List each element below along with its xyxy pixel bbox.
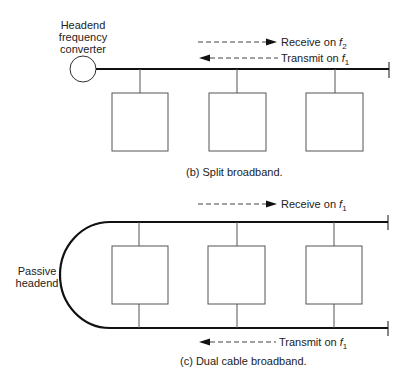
receive-arrow-head-icon — [266, 39, 277, 46]
split-transmit-label: Transmit on f1 — [281, 52, 349, 69]
station-box — [112, 246, 168, 304]
station-box — [112, 93, 168, 151]
passive-headend-label: Passive headend — [14, 265, 60, 289]
label-line: headend — [14, 277, 60, 289]
dual-cable-diagram — [60, 201, 388, 346]
dual-transmit-label: Transmit on f1 — [279, 336, 347, 353]
transmit-arrow-head-icon — [199, 55, 210, 62]
label-line: Headend — [56, 19, 110, 31]
station-box — [306, 246, 362, 304]
station-box — [208, 246, 265, 304]
headend-converter-circle — [70, 56, 96, 82]
label-line: frequency — [56, 31, 110, 43]
station-box — [209, 93, 266, 151]
transmit-arrow-head-icon — [199, 339, 210, 346]
split-receive-label: Receive on f2 — [281, 36, 347, 53]
split-caption: (b) Split broadband. — [186, 166, 283, 178]
dual-caption: (c) Dual cable broadband. — [180, 355, 307, 367]
label-line: converter — [56, 43, 110, 55]
dual-cable-loop — [60, 222, 388, 328]
label-line: Passive — [14, 265, 60, 277]
headend-converter-label: Headend frequency converter — [56, 19, 110, 55]
station-box — [306, 93, 363, 151]
receive-arrow-head-icon — [266, 201, 277, 208]
dual-receive-label: Receive on f1 — [281, 198, 347, 215]
